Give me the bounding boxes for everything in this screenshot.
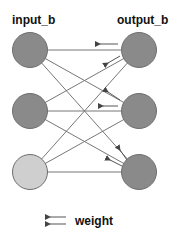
arrow-up-left-icon — [108, 92, 120, 100]
output-node-3 — [122, 155, 157, 190]
legend-label: weight — [74, 214, 113, 228]
output-label: output_b — [117, 13, 168, 27]
arrow-up-left-icon — [120, 150, 127, 160]
network-diagram: input_b output_b weight — [0, 0, 173, 233]
input-node-1 — [13, 33, 48, 68]
output-node-2 — [122, 94, 157, 129]
input-node-3 — [13, 155, 48, 190]
input-nodes — [13, 33, 48, 190]
legend: weight — [50, 214, 113, 228]
output-node-1 — [122, 33, 157, 68]
input-label: input_b — [12, 13, 55, 27]
output-nodes — [122, 33, 157, 190]
arrow-up-left-icon — [110, 160, 122, 166]
input-node-2 — [13, 94, 48, 129]
